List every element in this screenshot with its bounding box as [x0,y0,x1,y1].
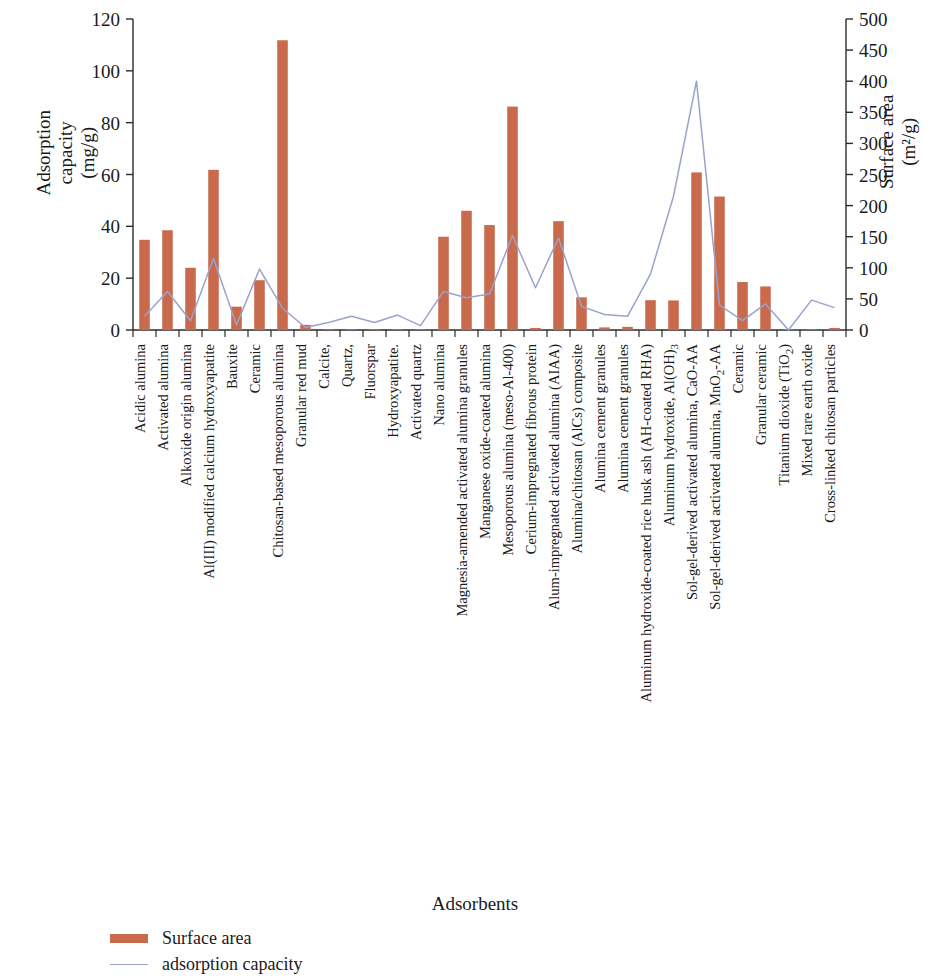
bar [691,172,702,330]
x-axis-category-label: Alum-impregnated activated alumina (AIAA… [546,344,563,610]
x-axis-category-label: Manganese oxide-coated alumina [477,343,493,538]
line-series-adsorption-capacity [145,81,835,330]
bar [484,225,495,330]
bar [277,40,288,330]
x-axis-category-label: Alkoxide origin alumina [178,343,194,486]
bar [162,230,173,330]
bar [346,329,357,330]
x-axis-category-label: Mesoporous alumina (meso-Al-400) [500,344,517,556]
x-axis-title: Adsorbents [0,893,950,915]
bar [415,329,426,330]
x-axis-category-label: Activated alumina [155,343,171,450]
x-axis-category-label: Chitosan-based mesoporous alumina [270,343,286,557]
bar [599,327,610,330]
y-axis-left-tick-label: 20 [101,268,120,289]
bar [208,170,219,330]
y-axis-left-tick-label: 40 [101,216,120,237]
x-axis-category-label: Ceramic [247,344,263,393]
x-axis-category-label: Al(III) modified calcium hydroxyapatite [201,344,218,579]
x-axis-category-label: Calcite, [316,344,332,389]
x-axis-category-label: Bauxite [224,344,240,389]
bar [668,300,679,330]
x-axis-category-label: Granular red mud [293,343,309,447]
bar [461,211,472,330]
bar [737,282,748,330]
x-axis-category-label: Alumina cement granules [615,344,631,493]
bar [323,329,334,330]
x-axis-category-label: Magnesia-amended activated alumina granu… [454,344,470,617]
bar [438,237,449,330]
x-axis-category-label: Nano alumina [431,343,447,425]
bar [254,280,265,330]
legend-label-adsorption-capacity: adsorption capacity [162,954,302,975]
bar [829,328,840,330]
x-axis-category-label: Alumina cement granules [592,344,608,493]
x-axis-category-label: Ceramic [730,344,746,393]
x-axis-category-label: Granular ceramic [753,344,769,445]
y-axis-right-tick-label: 50 [859,289,878,310]
x-axis-category-label: Quartz, [339,344,355,387]
y-axis-right-tick-label: 500 [859,9,888,30]
x-axis-category-label: Titanium dioxide (TiO2) [776,344,795,486]
y-axis-left-title-line1: Adsorption [33,93,55,213]
x-axis-category-label: Aluminum hydroxide, Al(OH)3 [661,344,680,527]
y-axis-right-tick-label: 450 [859,40,888,61]
y-axis-left-title-line2: capacity [55,93,77,213]
y-axis-right-title-line2: (m²/g) [898,82,920,202]
bar [645,300,656,330]
y-axis-left-tick-label: 0 [111,320,121,341]
y-axis-right-tick-label: 150 [859,227,888,248]
x-axis-category-label: Acidic alumina [132,343,148,433]
x-axis-category-label: Activated quartz [408,343,424,440]
bar [530,328,541,330]
x-axis-category-label: Mixed rare earth oxide [799,344,815,476]
chart-legend: Surface area adsorption capacity [110,925,302,977]
legend-label-surface-area: Surface area [162,928,251,949]
x-axis-category-label: Sol-gel-derived activated alumina, CaO-A… [684,343,700,600]
y-axis-left-title: Adsorption capacity (mg/g) [33,93,99,213]
y-axis-right-title: Surface area (m²/g) [876,82,920,202]
y-axis-left-tick-label: 60 [101,165,120,186]
legend-bar-swatch-icon [110,934,148,943]
x-axis-category-label: Alumina/chitosan (AlCs) composite [569,344,586,553]
chart-figure: Adsorption capacity (mg/g) Surface area … [0,0,950,978]
x-axis-category-label: Hydroxyapatite. [385,344,401,438]
bar [622,327,633,330]
y-axis-left-tick-label: 120 [92,9,121,30]
bar [231,307,242,330]
plot-area: 0204060801001200501001502002503003504004… [0,0,950,890]
bar [806,329,817,330]
legend-line-swatch-icon [110,964,148,965]
x-axis-category-label: Cross-linked chitosan particles [822,344,838,523]
legend-item-surface-area: Surface area [110,925,302,951]
bar [392,329,403,330]
legend-item-adsorption-capacity: adsorption capacity [110,951,302,977]
bar [507,107,518,330]
x-axis-category-label: Aluminum hydroxide-coated rice husk ash … [638,344,655,703]
y-axis-left-tick-label: 80 [101,113,120,134]
y-axis-left-title-line3: (mg/g) [77,93,99,213]
y-axis-left-tick-label: 100 [92,61,121,82]
bar [576,297,587,330]
y-axis-right-title-line1: Surface area [876,82,898,202]
y-axis-right-tick-label: 0 [859,320,869,341]
bar [369,329,380,330]
bar [139,240,150,330]
x-axis-category-label: Cerium-impregnated fibrous protein [523,343,539,554]
x-axis-category-label: Fluorspar [362,344,378,400]
y-axis-right-tick-label: 100 [859,258,888,279]
x-axis-category-label: Sol-gel-derived activated alumina, MnO2-… [707,343,726,609]
